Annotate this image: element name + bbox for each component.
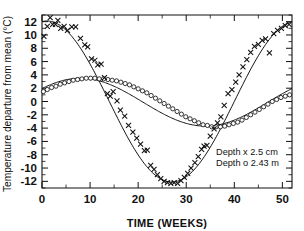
y-tick-label: -6 bbox=[27, 135, 37, 147]
chart-plot-area: 01020304050 121086420-2-4-6-8-10-12 TIME… bbox=[0, 0, 304, 231]
data-point-deep bbox=[149, 93, 153, 97]
data-point-deep bbox=[58, 82, 62, 86]
x-tick-label: 10 bbox=[84, 193, 97, 205]
y-tick-label: 8 bbox=[31, 42, 38, 54]
data-point-deep bbox=[288, 93, 292, 97]
data-point-deep bbox=[88, 76, 92, 80]
data-point-deep bbox=[127, 83, 131, 87]
x-tick-label: 0 bbox=[39, 193, 45, 205]
fit-curve-deep bbox=[42, 78, 292, 126]
data-point-shallow bbox=[267, 50, 272, 55]
data-point-deep bbox=[132, 85, 136, 89]
chart-figure: 01020304050 121086420-2-4-6-8-10-12 TIME… bbox=[0, 0, 304, 231]
data-point-deep bbox=[97, 77, 101, 81]
data-point-shallow bbox=[218, 114, 223, 119]
data-point-deep bbox=[179, 112, 183, 116]
data-point-shallow bbox=[199, 147, 204, 152]
data-point-deep bbox=[275, 97, 279, 101]
data-point-deep bbox=[192, 119, 196, 123]
data-point-shallow bbox=[111, 89, 116, 94]
data-point-deep bbox=[93, 76, 97, 80]
data-point-shallow bbox=[138, 142, 143, 147]
data-point-deep bbox=[67, 79, 71, 83]
data-point-deep bbox=[262, 105, 266, 109]
data-point-deep bbox=[54, 84, 58, 88]
data-point-shallow bbox=[152, 167, 157, 172]
data-point-shallow bbox=[85, 44, 90, 49]
data-point-deep bbox=[266, 102, 270, 106]
data-point-shallow bbox=[240, 64, 245, 69]
data-point-shallow bbox=[122, 114, 127, 119]
data-point-shallow bbox=[134, 136, 139, 141]
data-point-deep bbox=[218, 125, 222, 129]
data-point-deep bbox=[236, 120, 240, 124]
data-point-deep bbox=[249, 113, 253, 117]
data-point-shallow bbox=[229, 87, 234, 92]
data-point-deep bbox=[231, 121, 235, 125]
data-point-deep bbox=[153, 96, 157, 100]
data-point-deep bbox=[244, 115, 248, 119]
data-point-deep bbox=[158, 99, 162, 103]
data-point-deep bbox=[223, 124, 227, 128]
y-tick-label: 0 bbox=[31, 96, 37, 108]
data-point-shallow bbox=[222, 103, 227, 108]
data-point-shallow bbox=[99, 62, 104, 67]
y-axis-title: Temperature departure from mean (°C) bbox=[2, 16, 13, 192]
data-point-shallow bbox=[208, 134, 213, 139]
y-tick-label: -2 bbox=[27, 109, 37, 121]
data-point-deep bbox=[63, 81, 67, 85]
x-axis-tick-labels: 01020304050 bbox=[39, 193, 289, 205]
data-point-deep bbox=[205, 123, 209, 127]
y-tick-label: 12 bbox=[24, 16, 37, 28]
data-point-deep bbox=[166, 104, 170, 108]
data-point-shallow bbox=[196, 154, 201, 159]
data-point-shallow bbox=[237, 72, 242, 77]
y-tick-label: 6 bbox=[31, 56, 37, 68]
data-point-deep bbox=[171, 107, 175, 111]
y-tick-label: -8 bbox=[27, 149, 38, 161]
data-point-deep bbox=[257, 107, 261, 111]
data-point-shallow bbox=[126, 123, 131, 128]
data-point-deep bbox=[71, 78, 75, 82]
data-point-shallow bbox=[233, 80, 238, 85]
x-tick-label: 40 bbox=[228, 193, 241, 205]
data-point-deep bbox=[270, 99, 274, 103]
data-point-deep bbox=[80, 77, 84, 81]
data-point-shallow bbox=[248, 50, 253, 55]
data-point-shallow bbox=[115, 98, 120, 103]
data-point-deep bbox=[50, 85, 54, 89]
legend-entry-deep: Depth o 2.43 m bbox=[216, 158, 279, 168]
x-axis-title: TIME (WEEKS) bbox=[127, 217, 208, 229]
data-point-deep bbox=[123, 81, 127, 85]
data-point-deep bbox=[175, 109, 179, 113]
y-tick-label: -4 bbox=[27, 122, 38, 134]
data-point-deep bbox=[197, 121, 201, 125]
data-point-deep bbox=[283, 94, 287, 98]
y-tick-label: -10 bbox=[20, 162, 37, 174]
data-point-deep bbox=[253, 110, 257, 114]
y-tick-label: 4 bbox=[31, 69, 38, 81]
data-point-shallow bbox=[118, 108, 123, 113]
data-point-deep bbox=[140, 89, 144, 93]
data-point-shallow bbox=[189, 166, 194, 171]
data-point-shallow bbox=[192, 160, 197, 165]
data-point-shallow bbox=[78, 36, 83, 41]
data-point-deep bbox=[184, 115, 188, 119]
data-point-deep bbox=[145, 91, 149, 95]
data-point-shallow bbox=[244, 57, 249, 62]
data-point-deep bbox=[114, 79, 118, 83]
x-tick-label: 30 bbox=[180, 193, 193, 205]
series-markers-deep bbox=[41, 76, 291, 129]
data-point-deep bbox=[45, 87, 49, 91]
data-point-deep bbox=[162, 101, 166, 105]
data-point-deep bbox=[240, 118, 244, 122]
y-axis-tick-labels: 121086420-2-4-6-8-10-12 bbox=[20, 16, 37, 188]
y-tick-label: -12 bbox=[20, 175, 37, 187]
data-point-deep bbox=[188, 117, 192, 121]
x-tick-label: 50 bbox=[276, 193, 289, 205]
data-point-deep bbox=[279, 95, 283, 99]
data-point-shallow bbox=[48, 15, 53, 20]
data-point-deep bbox=[75, 77, 79, 81]
data-point-shallow bbox=[108, 94, 113, 99]
y-tick-label: 2 bbox=[31, 82, 37, 94]
